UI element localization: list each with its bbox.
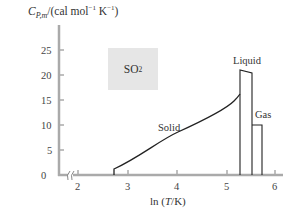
gas-segment: [252, 125, 262, 175]
x-axis-label: ln (T/K): [150, 195, 186, 207]
x-tick-labels: 2 3 4 5 6: [75, 181, 277, 192]
solid-label: Solid: [158, 122, 181, 133]
y-tick-labels: 0 5 10 15 20 25: [41, 45, 52, 181]
solid-curve: [114, 94, 240, 175]
svg-text:5: 5: [47, 145, 52, 156]
svg-text:5: 5: [224, 181, 229, 192]
svg-text:20: 20: [41, 70, 52, 81]
svg-text:0: 0: [41, 170, 46, 181]
liquid-label: Liquid: [233, 55, 262, 66]
chart-plot: 0 5 10 15 20 25 2 3 4 5 6 Solid Liquid G…: [0, 0, 292, 216]
svg-text:15: 15: [41, 95, 52, 106]
svg-text:10: 10: [41, 120, 52, 131]
svg-text:25: 25: [41, 45, 52, 56]
gas-label: Gas: [255, 109, 271, 120]
svg-text:6: 6: [272, 181, 277, 192]
svg-text:4: 4: [174, 181, 180, 192]
liquid-segment: [240, 70, 252, 175]
svg-text:3: 3: [125, 181, 130, 192]
svg-text:2: 2: [75, 181, 80, 192]
